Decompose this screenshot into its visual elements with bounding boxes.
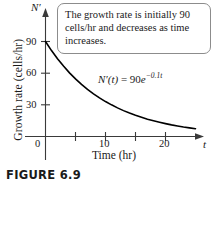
x-tick-label-10: 10 bbox=[99, 139, 110, 150]
callout-text: The growth rate is initially 90 cells/hr… bbox=[65, 9, 190, 46]
y-axis-arrowhead bbox=[42, 8, 49, 17]
y-tick-label-60: 60 bbox=[26, 68, 37, 79]
equation-coefficient: 90 bbox=[130, 73, 141, 85]
y-axis-variable-label: N′ bbox=[31, 2, 41, 13]
callout-box: The growth rate is initially 90 cells/hr… bbox=[57, 3, 211, 54]
equation-equals: = bbox=[118, 73, 130, 85]
x-axis-variable-label: t bbox=[203, 139, 206, 150]
equation-lhs: N′(t) bbox=[98, 73, 118, 85]
y-axis-title: Growth rate (cells/hr) bbox=[13, 25, 25, 155]
decay-curve bbox=[46, 42, 196, 129]
x-axis-title: Time (hr) bbox=[92, 150, 136, 162]
curve-equation-label: N′(t) = 90e−0.1t bbox=[98, 74, 162, 85]
y-tick-label-30: 30 bbox=[26, 100, 37, 111]
y-tick-label-90: 90 bbox=[26, 37, 37, 48]
figure-container: N′ t 90 60 30 0 10 20 Growth rate (cells… bbox=[0, 0, 221, 229]
origin-tick-label: 0 bbox=[35, 139, 40, 150]
figure-caption: FIGURE 6.9 bbox=[6, 168, 81, 182]
x-tick-label-20: 20 bbox=[159, 139, 170, 150]
equation-exponent: −0.1t bbox=[146, 71, 163, 80]
